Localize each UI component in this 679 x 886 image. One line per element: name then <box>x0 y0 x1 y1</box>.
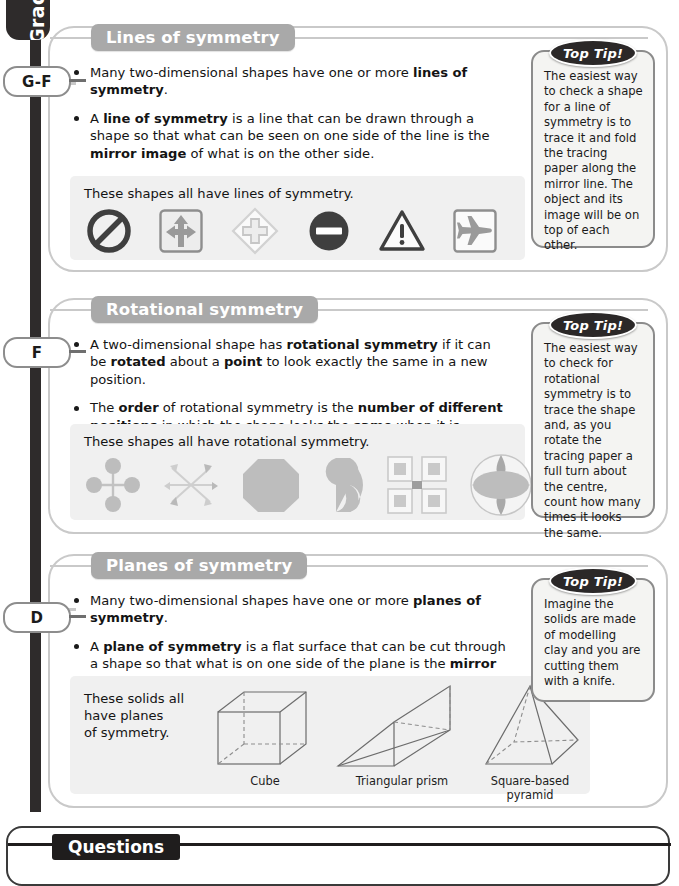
section-title-rotational-symmetry: Rotational symmetry <box>91 296 318 323</box>
arrows-square-sign-shape <box>158 208 204 254</box>
example-caption: These solids all have planes of symmetry… <box>84 690 184 741</box>
circle-with-petals-shape <box>466 452 536 518</box>
cross-with-circles-shape <box>82 454 144 516</box>
list-item: A two-dimensional shape has rotational s… <box>72 336 510 388</box>
octagon-shape <box>238 454 304 516</box>
list-item: A line of symmetry is a line that can be… <box>72 110 510 162</box>
grade-connector <box>69 615 86 618</box>
example-panel-lines-of-symmetry: These shapes all have lines of symmetry. <box>70 176 525 260</box>
grade-marker-label: G-F <box>22 73 52 91</box>
grade-marker-label: F <box>32 344 43 362</box>
airplane-square-sign-shape <box>452 208 498 254</box>
top-tip-lines-of-symmetry: Top Tip! The easiest way to check a shap… <box>531 50 655 248</box>
grade-connector <box>69 350 86 353</box>
prohibition-sign-shape <box>86 208 132 254</box>
top-tip-badge: Top Tip! <box>549 567 637 595</box>
questions-title: Questions <box>52 834 180 860</box>
grade-connector <box>69 79 86 82</box>
section-card-rotational-symmetry: Rotational symmetry A two-dimensional sh… <box>48 298 668 534</box>
top-tip-rotational-symmetry: Top Tip! The easiest way to check for ro… <box>531 322 655 518</box>
grade-marker-label: D <box>31 609 44 627</box>
solid-label-square-based-pyramid: Square-based pyramid <box>468 774 592 802</box>
top-tip-badge: Top Tip! <box>549 39 637 67</box>
grade-marker-d: D <box>3 602 71 633</box>
section-card-lines-of-symmetry: Lines of symmetry Many two-dimensional s… <box>48 26 668 272</box>
section-title-planes-of-symmetry: Planes of symmetry <box>91 552 307 579</box>
example-caption: These shapes all have rotational symmetr… <box>84 433 370 450</box>
top-tip-planes-of-symmetry: Top Tip! Imagine the solids are made of … <box>531 578 655 702</box>
solid-label-triangular-prism: Triangular prism <box>328 774 476 788</box>
list-item: Many two-dimensional shapes have one or … <box>72 592 510 627</box>
grades-tab-label: Grades <box>26 0 48 40</box>
no-entry-sign-shape <box>306 208 352 254</box>
triangular-prism-diagram <box>332 682 472 774</box>
example-panel-rotational-symmetry: These shapes all have rotational symmetr… <box>70 424 525 520</box>
four-squares-pattern-shape <box>384 454 450 516</box>
top-tip-text: The easiest way to check a shape for a l… <box>533 52 653 264</box>
list-item: Many two-dimensional shapes have one or … <box>72 64 510 99</box>
section-title-lines-of-symmetry: Lines of symmetry <box>91 24 295 51</box>
example-caption: These shapes all have lines of symmetry. <box>84 185 354 202</box>
warning-triangle-sign-shape <box>378 208 426 254</box>
s-curve-shape <box>320 454 368 516</box>
cube-diagram <box>210 686 320 772</box>
grade-marker-f: F <box>3 337 71 368</box>
pinwheel-arrows-shape <box>160 454 222 516</box>
cross-diamond-sign-shape <box>230 206 280 256</box>
top-tip-text: The easiest way to check for rotational … <box>533 324 653 551</box>
solid-label-cube: Cube <box>210 774 320 788</box>
top-tip-badge: Top Tip! <box>549 311 637 339</box>
top-tip-text: Imagine the solids are made of modelling… <box>533 580 653 699</box>
grades-tab: Grades <box>6 0 50 40</box>
grade-marker-g-f: G-F <box>3 66 71 97</box>
grade-spine <box>30 0 41 812</box>
section-card-planes-of-symmetry: Planes of symmetry Many two-dimensional … <box>48 554 668 808</box>
example-panel-planes-of-symmetry: These solids all have planes of symmetry… <box>70 676 590 794</box>
